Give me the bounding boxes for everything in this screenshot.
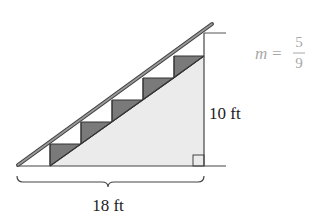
slope-variable: m bbox=[255, 44, 267, 63]
staircase-diagram: 18 ft 10 ft m = 5 9 bbox=[0, 0, 319, 223]
slope-equals: = bbox=[272, 44, 282, 63]
slope-denominator: 9 bbox=[295, 55, 303, 71]
run-brace bbox=[17, 176, 204, 187]
rise-label: 10 ft bbox=[209, 104, 241, 123]
run-label: 18 ft bbox=[92, 196, 124, 215]
slope-formula: m = 5 9 bbox=[255, 34, 305, 71]
slope-numerator: 5 bbox=[295, 34, 303, 50]
